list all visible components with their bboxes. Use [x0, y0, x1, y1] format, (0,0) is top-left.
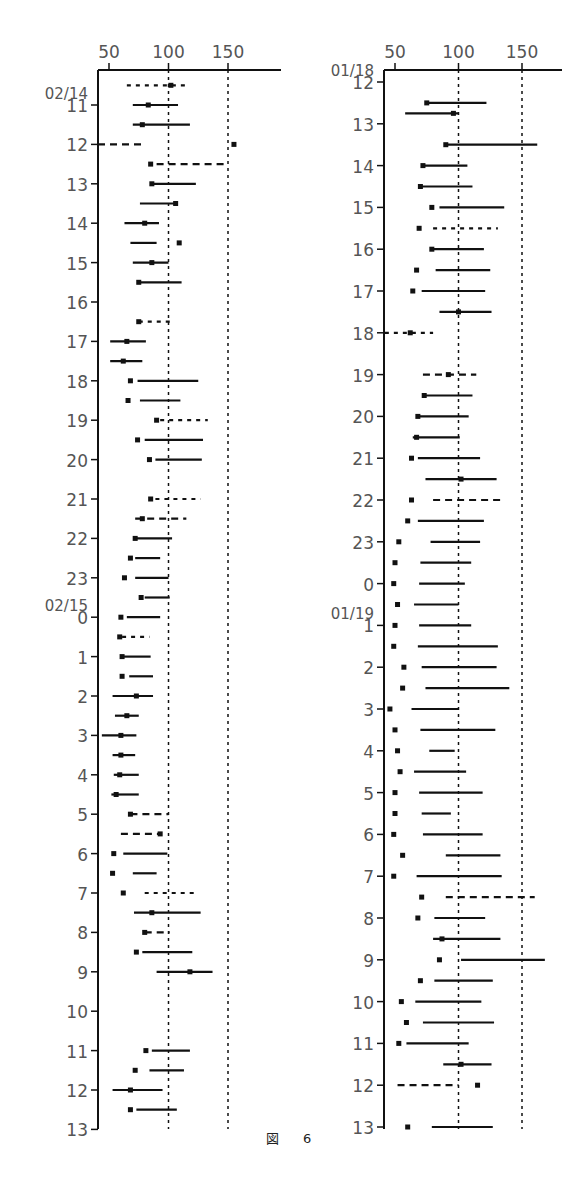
value-marker	[136, 319, 141, 324]
y-tick-label: 10	[352, 993, 374, 1013]
y-tick-label: 15	[352, 198, 374, 218]
value-marker	[415, 916, 420, 921]
value-marker	[128, 378, 133, 383]
value-marker	[424, 100, 429, 105]
x-tick-label: 150	[506, 42, 538, 62]
value-marker	[154, 418, 159, 423]
value-marker	[128, 1088, 133, 1093]
value-marker	[398, 769, 403, 774]
value-marker	[120, 674, 125, 679]
value-marker	[122, 575, 127, 580]
y-tick-label: 12	[66, 135, 88, 155]
date-label: 01/19	[331, 605, 374, 623]
value-marker	[128, 556, 133, 561]
value-marker	[231, 142, 236, 147]
y-tick-label: 4	[363, 742, 374, 762]
date-label: 02/14	[45, 85, 88, 103]
y-tick-label: 22	[66, 529, 88, 549]
value-marker	[133, 536, 138, 541]
y-tick-label: 6	[363, 825, 374, 845]
caption-number: 6	[303, 1131, 321, 1146]
value-marker	[142, 930, 147, 935]
y-tick-label: 4	[77, 766, 88, 786]
value-marker	[149, 260, 154, 265]
value-marker	[117, 772, 122, 777]
value-marker	[118, 733, 123, 738]
y-tick-label: 0	[363, 575, 374, 595]
value-marker	[391, 581, 396, 586]
y-tick-label: 17	[352, 282, 374, 302]
y-tick-label: 3	[363, 700, 374, 720]
y-tick-label: 17	[66, 332, 88, 352]
figure-canvas: 5010015011121314151617181920212223012345…	[0, 0, 587, 1178]
caption-prefix: 図	[266, 1128, 289, 1147]
y-tick-label: 5	[77, 805, 88, 825]
value-marker	[134, 694, 139, 699]
value-marker	[128, 812, 133, 817]
value-marker	[475, 1083, 480, 1088]
value-marker	[118, 753, 123, 758]
value-marker	[124, 339, 129, 344]
value-marker	[459, 477, 464, 482]
value-marker	[140, 122, 145, 127]
y-tick-label: 3	[77, 726, 88, 746]
value-marker	[409, 456, 414, 461]
value-marker	[399, 999, 404, 1004]
value-marker	[408, 330, 413, 335]
y-tick-label: 2	[363, 658, 374, 678]
value-marker	[147, 457, 152, 462]
y-tick-label: 20	[66, 451, 88, 471]
value-marker	[173, 201, 178, 206]
left-chart: 5010015011121314151617181920212223012345…	[45, 42, 281, 1140]
value-marker	[136, 280, 141, 285]
y-tick-label: 20	[352, 407, 374, 427]
value-marker	[417, 226, 422, 231]
value-marker	[158, 831, 163, 836]
y-tick-label: 8	[363, 909, 374, 929]
value-marker	[121, 891, 126, 896]
value-marker	[146, 103, 151, 108]
value-marker	[120, 654, 125, 659]
value-marker	[148, 497, 153, 502]
value-marker	[391, 832, 396, 837]
y-tick-label: 5	[363, 784, 374, 804]
value-marker	[111, 851, 116, 856]
value-marker	[168, 83, 173, 88]
y-tick-label: 6	[77, 845, 88, 865]
y-tick-label: 15	[66, 254, 88, 274]
value-marker	[393, 790, 398, 795]
y-tick-label: 13	[352, 115, 374, 135]
value-marker	[420, 163, 425, 168]
y-tick-label: 7	[363, 867, 374, 887]
value-marker	[446, 372, 451, 377]
value-marker	[429, 205, 434, 210]
value-marker	[124, 713, 129, 718]
value-marker	[451, 111, 456, 116]
value-marker	[429, 247, 434, 252]
y-tick-label: 22	[352, 491, 374, 511]
y-tick-label: 8	[77, 923, 88, 943]
y-tick-label: 11	[352, 1034, 374, 1054]
value-marker	[148, 162, 153, 167]
y-tick-label: 21	[352, 449, 374, 469]
value-marker	[149, 181, 154, 186]
y-tick-label: 13	[66, 175, 88, 195]
y-tick-label: 12	[66, 1081, 88, 1101]
value-marker	[418, 184, 423, 189]
date-label: 02/15	[45, 597, 88, 615]
value-marker	[419, 895, 424, 900]
value-marker	[142, 221, 147, 226]
value-marker	[409, 498, 414, 503]
y-tick-label: 2	[77, 687, 88, 707]
value-marker	[414, 268, 419, 273]
x-tick-label: 50	[98, 42, 120, 62]
value-marker	[121, 359, 126, 364]
value-marker	[405, 518, 410, 523]
y-tick-label: 14	[352, 157, 374, 177]
value-marker	[422, 393, 427, 398]
y-tick-label: 1	[77, 648, 88, 668]
value-marker	[418, 978, 423, 983]
value-marker	[393, 560, 398, 565]
y-tick-label: 18	[352, 324, 374, 344]
date-label: 01/18	[331, 62, 374, 80]
